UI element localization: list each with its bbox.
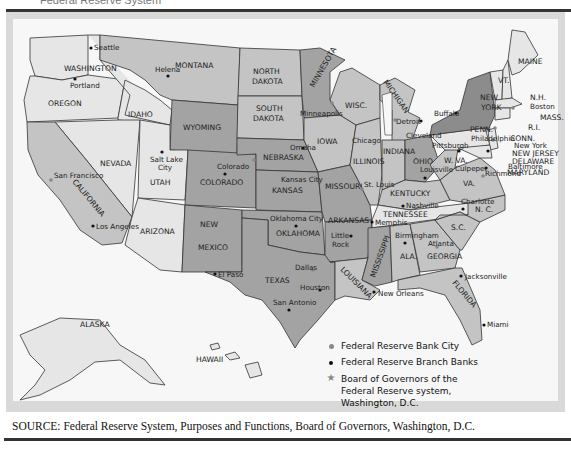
svg-text:New Orleans: New Orleans	[378, 289, 424, 298]
label-alabama: ALA.	[400, 252, 417, 261]
legend-item-branch: Federal Reserve Branch Banks	[325, 357, 478, 367]
label-nebraska: NEBRASKA	[263, 153, 305, 162]
svg-text:Richmond: Richmond	[485, 169, 521, 178]
svg-text:Helena: Helena	[155, 65, 180, 74]
label-hawaii: HAWAII	[196, 355, 223, 364]
branch-new-orleans	[372, 290, 375, 293]
label-kansas: KANSAS	[272, 186, 303, 195]
label-colorado: COLORADO	[200, 178, 243, 187]
label-georgia: GEORGIA	[427, 252, 463, 261]
label-massachusetts: MASS.	[540, 113, 564, 122]
svg-text:Dallas: Dallas	[295, 263, 317, 272]
label-south-dakota-1: SOUTH	[256, 104, 283, 113]
legend-item-bank-city: Federal Reserve Bank City	[325, 341, 478, 351]
bank-minneapolis	[330, 101, 334, 105]
branch-el-paso	[213, 272, 216, 275]
svg-text:San Antonio: San Antonio	[273, 298, 316, 307]
branch-salt-lake	[160, 150, 163, 153]
svg-text:Kansas City: Kansas City	[281, 175, 324, 184]
branch-nashville	[401, 204, 404, 207]
source-note: SOURCE: Federal Reserve System, Purposes…	[12, 420, 475, 432]
branch-baltimore	[486, 149, 489, 152]
map-legend: Federal Reserve Bank City Federal Reserv…	[325, 341, 478, 415]
svg-text:Houston: Houston	[300, 283, 330, 292]
branch-oklahoma-city	[294, 224, 297, 227]
svg-text:Minneapolis: Minneapolis	[300, 109, 343, 118]
branch-san-antonio	[287, 308, 290, 311]
svg-text:Chicago: Chicago	[352, 136, 381, 145]
svg-text:Detroit: Detroit	[396, 117, 421, 126]
label-new-york-1: NEW	[480, 93, 498, 102]
label-iowa: IOWA	[317, 137, 338, 146]
svg-text:Culpeper: Culpeper	[455, 164, 488, 173]
svg-text:San Francisco: San Francisco	[54, 171, 103, 180]
label-north-carolina: N. C.	[475, 205, 493, 214]
svg-text:Omaha: Omaha	[290, 143, 316, 152]
us-map: WASHINGTON OREGON IDAHO MONTANA WYOMING …	[0, 0, 571, 453]
svg-text:Little: Little	[331, 231, 350, 240]
label-virginia: VA.	[463, 179, 475, 188]
label-new-hampshire: N.H.	[530, 93, 546, 102]
branch-memphis	[370, 220, 373, 223]
label-oregon: OREGON	[48, 99, 82, 108]
svg-text:Colorado: Colorado	[217, 162, 249, 171]
svg-text:Jacksonville: Jacksonville	[464, 272, 508, 281]
svg-text:Memphis: Memphis	[375, 218, 408, 227]
star-icon: ★	[325, 373, 337, 382]
label-idaho: IDAHO	[128, 110, 153, 119]
svg-text:El Paso: El Paso	[218, 270, 243, 279]
label-maine: MAINE	[518, 57, 543, 66]
bottom-rule	[4, 438, 571, 441]
svg-text:City: City	[158, 163, 173, 172]
svg-text:Boston: Boston	[530, 102, 555, 111]
black-dot-icon	[329, 361, 333, 365]
svg-text:Oklahoma City: Oklahoma City	[270, 214, 324, 223]
svg-text:St. Louis: St. Louis	[364, 180, 395, 189]
label-washington: WASHINGTON	[64, 64, 117, 73]
svg-text:Rock: Rock	[332, 240, 350, 249]
svg-text:Charlotte: Charlotte	[461, 197, 495, 206]
label-wyoming: WYOMING	[183, 123, 221, 132]
svg-text:Portland: Portland	[70, 81, 100, 90]
branch-helena	[166, 74, 169, 77]
state-alaska	[20, 318, 165, 400]
label-pennsylvania: PENN.	[470, 125, 493, 134]
svg-text:Miami: Miami	[487, 320, 509, 329]
svg-text:Philadelphia: Philadelphia	[471, 134, 515, 143]
label-north-dakota-1: NORTH	[253, 67, 280, 76]
label-illinois: ILLINOIS	[353, 157, 385, 166]
svg-text:Los Angeles: Los Angeles	[96, 222, 139, 231]
svg-text:Louisville: Louisville	[420, 165, 454, 174]
svg-text:Atlanta: Atlanta	[428, 239, 454, 248]
label-north-dakota-2: DAKOTA	[252, 77, 283, 86]
branch-charlotte	[461, 207, 464, 210]
state-washington	[30, 35, 88, 80]
label-kentucky: KENTUCKY	[390, 189, 431, 198]
legend-item-board: ★ Board of Governors of the Federal Rese…	[325, 373, 478, 409]
svg-text:Cleveland: Cleveland	[406, 131, 442, 140]
svg-text:Nashville: Nashville	[406, 201, 439, 210]
bank-kansas-city	[252, 158, 256, 162]
label-rhode-island: R.I.	[528, 123, 540, 132]
branch-los-angeles	[91, 224, 94, 227]
label-indiana: INDIANA	[383, 147, 416, 156]
label-south-carolina: S.C.	[451, 223, 466, 232]
bank-new-york	[493, 126, 497, 130]
lake-michigan	[382, 92, 392, 135]
state-new-mexico	[182, 205, 242, 272]
label-new-york-2: YORK	[480, 103, 502, 112]
branch-little-rock	[349, 234, 352, 237]
label-new-mexico-1: NEW	[200, 220, 218, 229]
label-oklahoma: OKLAHOMA	[276, 229, 321, 238]
label-arizona: ARIZONA	[140, 227, 176, 236]
branch-denver	[223, 172, 226, 175]
label-arkansas: ARKANSAS	[328, 216, 369, 225]
svg-text:Seattle: Seattle	[94, 43, 120, 52]
label-alaska: ALASKA	[80, 320, 110, 329]
branch-birmingham	[403, 241, 406, 244]
bank-san-francisco	[49, 178, 53, 182]
branch-jacksonville	[459, 274, 462, 277]
state-maine	[508, 30, 538, 75]
label-missouri: MISSOURI	[325, 182, 362, 191]
svg-text:Buffalo: Buffalo	[434, 109, 459, 118]
